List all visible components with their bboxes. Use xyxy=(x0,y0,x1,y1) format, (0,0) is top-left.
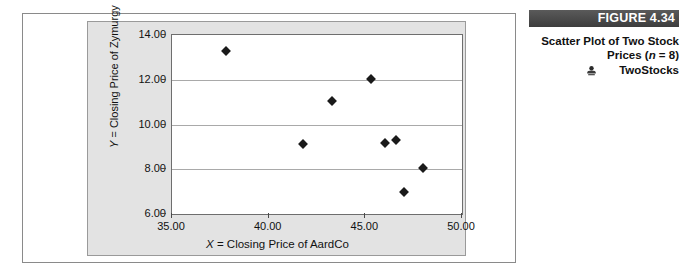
chart-container: 14.0012.0010.008.006.00 Y = Closing Pric… xyxy=(87,21,466,256)
x-axis-title: X = Closing Price of AardCo xyxy=(88,238,467,250)
data-point xyxy=(299,139,309,149)
data-point xyxy=(391,135,401,145)
x-tick-label: 35.00 xyxy=(141,220,201,232)
caption-line-2: Prices (n = 8) xyxy=(529,48,679,62)
figure-caption: Scatter Plot of Two Stock Prices (n = 8)… xyxy=(529,34,679,77)
y-tick-mark xyxy=(161,168,166,169)
y-tick-mark xyxy=(161,213,166,214)
y-tick-label: 8.00 xyxy=(106,163,166,174)
caption-line-1: Scatter Plot of Two Stock xyxy=(529,34,679,48)
data-point xyxy=(221,46,231,56)
y-axis-title: Y = Closing Price of Zymurgy xyxy=(108,8,120,148)
y-tick-mark xyxy=(161,34,166,35)
x-tick-mark xyxy=(171,213,172,218)
x-tick-label: 45.00 xyxy=(334,220,394,232)
data-point xyxy=(366,74,376,84)
y-axis-title-text: = Closing Price of Zymurgy xyxy=(108,5,120,140)
x-tick-mark xyxy=(268,213,269,218)
x-tick-mark xyxy=(461,213,462,218)
data-point xyxy=(380,138,390,148)
data-point xyxy=(418,163,428,173)
x-tick-mark xyxy=(364,213,365,218)
x-tick-label: 40.00 xyxy=(238,220,298,232)
data-point xyxy=(399,187,409,197)
y-tick-mark xyxy=(161,124,166,125)
caption-panel: FIGURE 4.34 Scatter Plot of Two Stock Pr… xyxy=(529,10,679,77)
x-axis-title-variable: X xyxy=(206,238,214,250)
dataset-row[interactable]: TwoStocks xyxy=(529,63,679,77)
caption-suffix: = 8) xyxy=(656,49,679,61)
gridline-horizontal xyxy=(172,125,462,126)
dataset-file-icon xyxy=(586,65,597,76)
y-tick-mark xyxy=(161,79,166,80)
figure-number-banner: FIGURE 4.34 xyxy=(529,10,679,27)
x-axis-title-text: = Closing Price of AardCo xyxy=(214,238,349,250)
y-axis-title-variable: Y xyxy=(108,141,120,148)
plot-area xyxy=(171,34,463,215)
figure-frame: 14.0012.0010.008.006.00 Y = Closing Pric… xyxy=(22,13,516,263)
x-tick-label: 50.00 xyxy=(431,220,491,232)
data-point xyxy=(328,96,338,106)
dataset-name-label: TwoStocks xyxy=(619,63,679,77)
y-tick-label: 6.00 xyxy=(106,208,166,219)
caption-n-variable: n xyxy=(649,49,656,61)
gridline-horizontal xyxy=(172,80,462,81)
caption-prefix: Prices ( xyxy=(607,49,649,61)
